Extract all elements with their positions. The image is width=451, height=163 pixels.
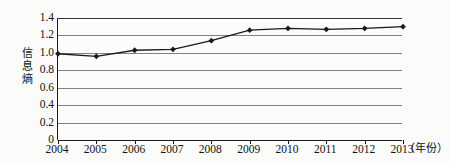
y-axis-title: 信 息 熵 <box>20 47 34 86</box>
x-tick-label-2005: 2005 <box>84 142 107 156</box>
data-point-2013 <box>400 24 406 30</box>
gridline-0 <box>58 140 402 141</box>
y-tick-label-1.2: 1.2 <box>33 30 54 42</box>
plot-area <box>57 18 402 140</box>
data-point-2007 <box>170 46 176 52</box>
chart-figure: 信 息 熵 00.20.40.60.81.01.21.4 20042005200… <box>0 0 451 163</box>
x-tick-label-2008: 2008 <box>199 142 222 156</box>
x-tick-label-2011: 2011 <box>314 142 337 156</box>
x-tick-label-2010: 2010 <box>276 142 299 156</box>
y-tick-label-0.2: 0.2 <box>33 117 54 129</box>
x-tick-label-2012: 2012 <box>352 142 375 156</box>
x-tick-label-2009: 2009 <box>237 142 260 156</box>
data-point-2006 <box>132 47 138 53</box>
series-line <box>58 27 403 57</box>
y-tick-label-0.4: 0.4 <box>33 99 54 111</box>
data-point-2009 <box>247 27 253 33</box>
x-axis-title: （年份） <box>404 142 448 156</box>
data-point-2011 <box>323 26 329 32</box>
data-series-entropy <box>58 18 403 140</box>
x-tick-label-2006: 2006 <box>122 142 145 156</box>
y-axis-tick-labels: 00.20.40.60.81.01.21.4 <box>33 0 54 163</box>
data-point-2005 <box>93 53 99 59</box>
y-tick-label-1.0: 1.0 <box>33 47 54 59</box>
x-tick-label-2007: 2007 <box>161 142 184 156</box>
x-tick-label-2004: 2004 <box>46 142 69 156</box>
data-point-2010 <box>285 26 291 32</box>
data-point-2012 <box>362 26 368 32</box>
data-point-2008 <box>208 38 214 44</box>
x-axis-tick-labels: 2004200520062007200820092010201120122013 <box>57 142 402 160</box>
data-point-2004 <box>55 51 61 57</box>
y-tick-label-0.6: 0.6 <box>33 82 54 94</box>
y-tick-label-1.4: 1.4 <box>33 12 54 24</box>
y-tick-label-0.8: 0.8 <box>33 65 54 77</box>
